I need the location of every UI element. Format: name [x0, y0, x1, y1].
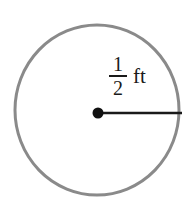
radius-unit: ft	[133, 65, 146, 87]
circle-diagram	[0, 0, 193, 210]
fraction-denominator: 2	[108, 77, 128, 99]
center-point	[93, 108, 104, 119]
radius-fraction: 1 2	[108, 54, 128, 99]
fraction-numerator: 1	[108, 54, 128, 75]
